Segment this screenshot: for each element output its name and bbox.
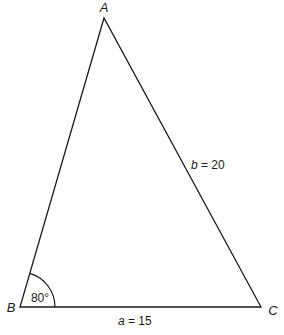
side-b-value: = 20 — [198, 158, 225, 172]
side-a-value: = 15 — [125, 314, 152, 328]
vertex-label-b: B — [7, 300, 16, 315]
angle-b-label: 80° — [31, 291, 49, 305]
vertex-label-a: A — [99, 0, 109, 15]
vertex-label-c: C — [268, 303, 278, 318]
side-b-label: b = 20 — [191, 158, 225, 172]
triangle-abc — [20, 18, 261, 307]
triangle-diagram: A B C 80° b = 20 a = 15 — [0, 0, 284, 335]
side-a-label: a = 15 — [118, 314, 152, 328]
